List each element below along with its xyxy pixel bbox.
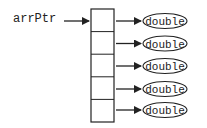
pointer-array-diagram: arrPtr double double double double doubl… <box>0 0 207 128</box>
array-box <box>91 9 114 122</box>
pointer-label: arrPtr <box>13 12 56 26</box>
double-label: double <box>145 105 185 117</box>
double-label: double <box>145 61 185 73</box>
element-4: double <box>116 103 187 118</box>
double-label: double <box>145 39 185 51</box>
double-label: double <box>145 84 185 96</box>
element-2: double <box>116 59 187 74</box>
element-3: double <box>116 82 187 97</box>
double-label: double <box>145 16 185 28</box>
element-1: double <box>116 36 187 51</box>
element-0: double <box>116 14 187 29</box>
